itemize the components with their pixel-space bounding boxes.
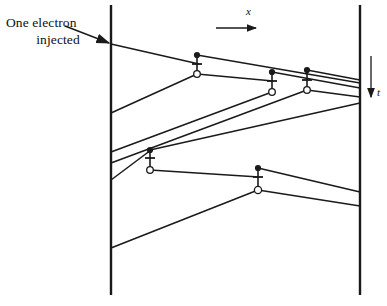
annotation-label-line-2: injected bbox=[6, 31, 110, 48]
annotation-label: One electron injected bbox=[6, 14, 110, 49]
worldline-v2-circle-downleft bbox=[111, 92, 272, 152]
vertex-4-open-circle bbox=[147, 167, 154, 174]
vertex-2-open-circle bbox=[269, 89, 276, 96]
worldline-v4-circle-v5 bbox=[150, 170, 259, 177]
vertex-1-open-circle bbox=[194, 71, 201, 78]
worldline-v3-circle-right bbox=[307, 90, 360, 97]
vertex-5-filled-dot bbox=[255, 165, 261, 171]
worldline-v5-dot-right bbox=[258, 168, 360, 192]
worldline-v1-circle-v2 bbox=[197, 74, 273, 81]
annotation-label-line-1: One electron bbox=[6, 14, 110, 31]
vertex-3-open-circle bbox=[304, 87, 311, 94]
vertex-markers-group bbox=[145, 52, 312, 194]
vertex-4-filled-dot bbox=[147, 147, 153, 153]
x-axis-label: x bbox=[245, 5, 251, 17]
worldlines-group bbox=[111, 44, 360, 248]
worldline-left-v4-dot bbox=[111, 150, 151, 180]
t-axis-label: t bbox=[377, 86, 381, 98]
vertex-5-open-circle bbox=[254, 186, 261, 193]
worldline-v1-dot-right bbox=[197, 55, 360, 83]
worldline-v1-circle-left bbox=[111, 74, 197, 113]
worldline-v3-circle-downleft bbox=[111, 90, 307, 163]
worldline-v5-circle-right bbox=[258, 190, 360, 206]
vertex-4 bbox=[145, 147, 155, 173]
vertex-3-filled-dot bbox=[304, 67, 310, 73]
worldline-v5-circle-downleft bbox=[111, 190, 258, 248]
vertex-2-filled-dot bbox=[269, 69, 275, 75]
spacetime-diagram-figure: x t bbox=[0, 0, 387, 306]
worldline-injected-electron bbox=[111, 44, 199, 64]
vertex-1-filled-dot bbox=[194, 52, 200, 58]
